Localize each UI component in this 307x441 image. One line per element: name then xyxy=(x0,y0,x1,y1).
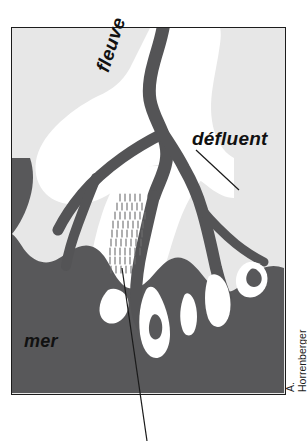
label-defluent: défluent xyxy=(192,128,268,150)
label-mer: mer xyxy=(24,331,58,352)
credit-line: A. Horrenberger xyxy=(284,330,307,392)
figure-delta-diagram: fleuve défluent mer A. Horrenberger xyxy=(0,0,307,441)
